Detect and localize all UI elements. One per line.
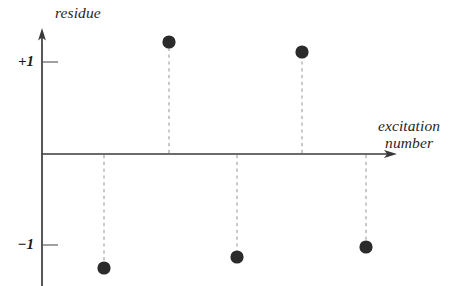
- y-axis-tick-label-positive-one: +1: [4, 53, 34, 70]
- x-axis-label-line-2: number: [385, 134, 433, 151]
- data-point-marker[interactable]: [230, 250, 243, 263]
- residue-vs-excitation-number-chart: residue excitationnumber +1 −1: [0, 0, 459, 286]
- data-markers: [97, 35, 372, 274]
- y-axis-tick-label-negative-one: −1: [4, 236, 34, 253]
- y-axis: [38, 28, 46, 286]
- y-axis-label: residue: [55, 4, 101, 22]
- x-axis: [42, 150, 397, 158]
- data-point-marker[interactable]: [359, 240, 372, 253]
- x-axis-label-line-1: excitation: [378, 117, 440, 134]
- x-axis-label: excitationnumber: [378, 117, 440, 152]
- stem-lines: [104, 45, 366, 266]
- data-point-marker[interactable]: [162, 35, 175, 48]
- data-point-marker[interactable]: [295, 45, 308, 58]
- data-point-marker[interactable]: [97, 261, 110, 274]
